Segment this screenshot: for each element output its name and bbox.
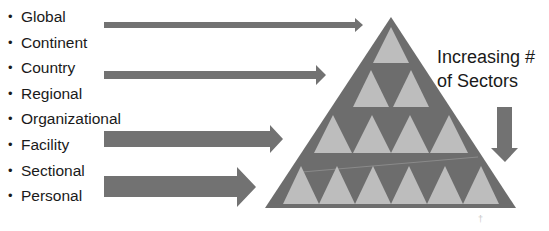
- arrow-organizational-icon: [104, 125, 283, 153]
- arrow-country-icon: [104, 65, 326, 85]
- annotation-line-1: Increasing #: [437, 44, 535, 70]
- faint-mark: †: [478, 214, 483, 224]
- down-arrow-icon: [491, 107, 518, 162]
- annotation-line-2: of Sectors: [437, 68, 518, 94]
- arrow-sectional-icon: [104, 167, 256, 207]
- arrow-global-icon: [104, 18, 363, 32]
- pyramid-diagram: †: [0, 0, 549, 231]
